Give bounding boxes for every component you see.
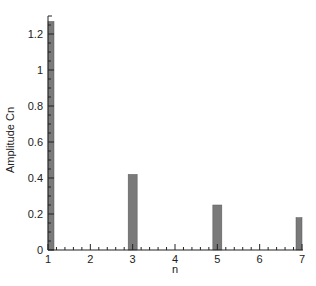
y-tick-label: 0.4: [28, 172, 43, 184]
x-tick-label: 6: [257, 253, 263, 265]
x-axis-label: n: [172, 263, 178, 275]
y-tick-label: 1.2: [28, 28, 43, 40]
x-tick-label: 3: [130, 253, 136, 265]
x-tick-label: 2: [87, 253, 93, 265]
x-tick-label: 7: [299, 253, 305, 265]
y-tick-label: 0: [37, 244, 43, 256]
x-tick-label: 1: [45, 253, 51, 265]
y-tick-label: 0.8: [28, 100, 43, 112]
y-axis-label: Amplitude Cn: [4, 107, 16, 173]
bar-n7: [296, 218, 302, 250]
bar-n3: [128, 174, 137, 250]
bar-n5: [213, 205, 222, 250]
x-tick-label: 5: [214, 253, 220, 265]
y-tick-label: 1: [37, 64, 43, 76]
amplitude-bar-chart: 123456700.20.40.60.811.2nAmplitude Cn: [0, 0, 316, 286]
bar-n1: [48, 21, 54, 250]
y-tick-label: 0.6: [28, 136, 43, 148]
y-tick-label: 0.2: [28, 208, 43, 220]
